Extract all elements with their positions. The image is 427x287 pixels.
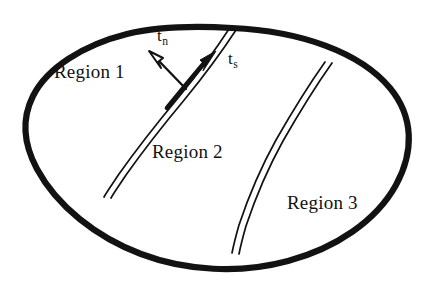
t-s-vector-arrow (167, 51, 216, 108)
region-2-label: Region 2 (152, 142, 223, 161)
interface-region2-region3 (232, 62, 332, 254)
t-s-subscript: s (233, 58, 237, 70)
region-3-label: Region 3 (287, 193, 358, 212)
interface-region1-region2 (104, 29, 236, 198)
figure-canvas: Region 1 Region 2 Region 3 tn ts (0, 0, 427, 287)
region-1-label: Region 1 (54, 62, 125, 81)
t-s-vector-label: ts (228, 50, 238, 70)
t-n-vector-arrow (149, 51, 186, 89)
t-n-subscript: n (162, 35, 168, 47)
t-n-vector-label: tn (157, 27, 168, 47)
